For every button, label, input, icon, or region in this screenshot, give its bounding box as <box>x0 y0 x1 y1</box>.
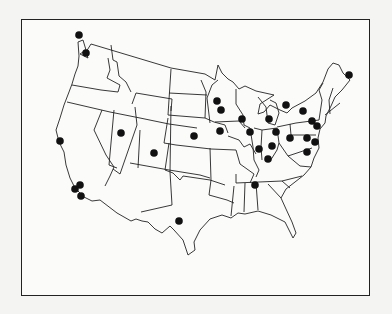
marker-dot <box>303 148 311 156</box>
marker-dot <box>255 145 263 153</box>
marker-dot <box>150 149 158 157</box>
marker-dot <box>286 134 294 142</box>
marker-dot <box>299 107 307 115</box>
marker-dot <box>313 122 321 130</box>
marker-dot <box>311 138 319 146</box>
marker-dot <box>272 128 280 136</box>
marker-dot <box>251 181 259 189</box>
us-map <box>0 0 392 314</box>
marker-dot <box>238 115 246 123</box>
marker-dot <box>265 115 273 123</box>
marker-dot <box>268 142 276 150</box>
marker-dot <box>77 192 85 200</box>
marker-dot <box>175 217 183 225</box>
marker-dot <box>282 101 290 109</box>
marker-dot <box>71 185 79 193</box>
state-boundaries <box>56 40 350 255</box>
marker-dot <box>213 97 221 105</box>
marker-dot <box>216 127 224 135</box>
location-markers <box>56 31 353 225</box>
marker-dot <box>217 106 225 114</box>
marker-dot <box>75 31 83 39</box>
marker-dot <box>264 155 272 163</box>
marker-dot <box>345 71 353 79</box>
marker-dot <box>303 134 311 142</box>
marker-dot <box>82 49 90 57</box>
marker-dot <box>246 128 254 136</box>
marker-dot <box>117 129 125 137</box>
marker-dot <box>56 137 64 145</box>
marker-dot <box>190 132 198 140</box>
